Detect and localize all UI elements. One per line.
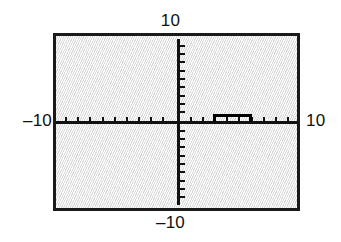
graph-figure: 10 –10 10 –10 xyxy=(0,0,341,242)
axis-label-x-max: 10 xyxy=(306,112,341,129)
axis-label-x-min: –10 xyxy=(8,112,52,129)
plot-canvas xyxy=(56,36,297,208)
axis-label-y-max: 10 xyxy=(0,12,341,29)
axis-label-y-min: –10 xyxy=(0,214,341,231)
plot-frame xyxy=(53,33,300,211)
